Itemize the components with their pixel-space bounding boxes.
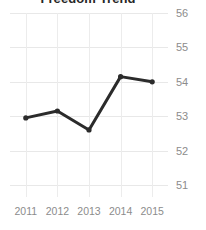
x-tick-label-2014: 2014 xyxy=(109,205,132,217)
y-tick-label-56: 56 xyxy=(176,7,202,19)
plot-area xyxy=(10,13,168,197)
x-tick-label-2013: 2013 xyxy=(77,205,100,217)
y-tick-label-51: 51 xyxy=(176,179,202,191)
y-tick-label-52: 52 xyxy=(176,145,202,157)
data-point-2015 xyxy=(150,79,155,84)
data-series-line xyxy=(10,13,168,197)
data-point-2011 xyxy=(23,115,28,120)
y-tick-label-54: 54 xyxy=(176,76,202,88)
x-tick-label-2012: 2012 xyxy=(46,205,69,217)
data-point-2013 xyxy=(86,127,91,132)
y-tick-label-53: 53 xyxy=(176,110,202,122)
y-tick-label-55: 55 xyxy=(176,41,202,53)
data-point-2014 xyxy=(118,74,123,79)
line-chart: Freedom Trend 565554535251 2011201220132… xyxy=(0,0,206,230)
series-line-freedom-trend xyxy=(26,77,152,130)
x-tick-label-2011: 2011 xyxy=(15,205,38,217)
chart-title: Freedom Trend xyxy=(0,0,176,6)
data-point-2012 xyxy=(55,108,60,113)
x-tick-label-2015: 2015 xyxy=(141,205,164,217)
